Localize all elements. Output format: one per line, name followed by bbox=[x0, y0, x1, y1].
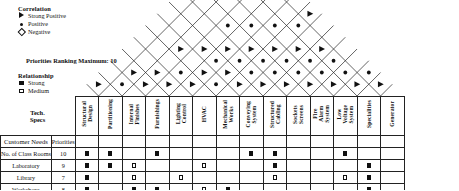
table-row: No. of Class Rooms10 bbox=[1, 148, 405, 160]
matrix-cell-r2-c10[interactable] bbox=[310, 172, 334, 184]
matrix-cell-r1-c11[interactable] bbox=[334, 160, 358, 172]
roof-mark-strong-positive-0 bbox=[96, 81, 102, 87]
matrix-cell-r0-c0[interactable] bbox=[75, 148, 99, 160]
spec-column-header-9[interactable]: SocketsScreens bbox=[287, 97, 311, 136]
matrix-cell-r1-c2[interactable] bbox=[122, 160, 146, 172]
matrix-cell-r0-c5[interactable] bbox=[193, 148, 217, 160]
roof-mark-positive-38 bbox=[214, 59, 218, 63]
tech-specs-corner-header: Tech.Specs bbox=[1, 97, 76, 136]
matrix-cell-r0-c4[interactable] bbox=[169, 148, 193, 160]
spec-column-header-2[interactable]: InternalFinishes bbox=[122, 97, 146, 136]
matrix-cell-r0-c13[interactable] bbox=[381, 148, 405, 160]
spec-column-header-5[interactable]: HVAC bbox=[193, 97, 217, 136]
matrix-cell-r0-c9[interactable] bbox=[287, 148, 311, 160]
matrix-cell-r2-c8[interactable] bbox=[263, 172, 287, 184]
matrix-cell-r3-c7[interactable] bbox=[240, 184, 264, 191]
spec-column-header-6[interactable]: MechanicalWorks bbox=[216, 97, 240, 136]
matrix-cell-r2-c2[interactable] bbox=[122, 172, 146, 184]
customer-need-label-2[interactable]: Library bbox=[1, 172, 52, 184]
matrix-cell-r1-c10[interactable] bbox=[310, 160, 334, 172]
roof-mark-positive-1 bbox=[120, 82, 124, 86]
roof-mark-strong-positive-25 bbox=[202, 46, 208, 52]
strong-relationship-icon bbox=[132, 187, 136, 190]
matrix-cell-r0-c11[interactable] bbox=[334, 148, 358, 160]
table-subheader-row: Customer NeedsPriorities bbox=[1, 136, 405, 148]
matrix-cell-r3-c6[interactable] bbox=[216, 184, 240, 191]
matrix-cell-r1-c1[interactable] bbox=[99, 160, 123, 172]
spec-column-header-11[interactable]: LowVoltageSystem bbox=[334, 97, 358, 136]
matrix-cell-r0-c6[interactable] bbox=[216, 148, 240, 160]
spec-column-label: MechanicalWorks bbox=[222, 100, 234, 129]
spec-column-header-0[interactable]: StructuralDesign bbox=[75, 97, 99, 136]
matrix-cell-r3-c12[interactable] bbox=[357, 184, 381, 191]
roof-mark-positive-20 bbox=[343, 71, 347, 75]
matrix-cell-r3-c2[interactable] bbox=[122, 184, 146, 191]
matrix-cell-r3-c4[interactable] bbox=[169, 184, 193, 191]
roof-mark-strong-positive-23 bbox=[378, 81, 384, 87]
subheader-spacer-9 bbox=[287, 136, 311, 148]
spec-column-header-3[interactable]: Furnishings bbox=[146, 97, 170, 136]
matrix-cell-r0-c3[interactable] bbox=[146, 148, 170, 160]
matrix-cell-r1-c7[interactable] bbox=[240, 160, 264, 172]
matrix-cell-r2-c4[interactable] bbox=[169, 172, 193, 184]
spec-column-header-4[interactable]: LightingControl bbox=[169, 97, 193, 136]
strong-relationship-icon bbox=[108, 151, 112, 155]
matrix-cell-r3-c13[interactable] bbox=[381, 184, 405, 191]
matrix-cell-r1-c9[interactable] bbox=[287, 160, 311, 172]
matrix-cell-r1-c3[interactable] bbox=[146, 160, 170, 172]
spec-column-header-13[interactable]: Generator bbox=[381, 97, 405, 136]
spec-column-header-7[interactable]: ConveyingSystem bbox=[240, 97, 264, 136]
matrix-cell-r2-c0[interactable] bbox=[75, 172, 99, 184]
matrix-cell-r0-c8[interactable] bbox=[263, 148, 287, 160]
matrix-cell-r3-c3[interactable] bbox=[146, 184, 170, 191]
spec-column-header-12[interactable]: Specialities bbox=[357, 97, 381, 136]
matrix-cell-r3-c10[interactable] bbox=[310, 184, 334, 191]
matrix-cell-r3-c9[interactable] bbox=[287, 184, 311, 191]
matrix-cell-r2-c3[interactable] bbox=[146, 172, 170, 184]
matrix-cell-r2-c12[interactable] bbox=[357, 172, 381, 184]
matrix-cell-r3-c11[interactable] bbox=[334, 184, 358, 191]
medium-relationship-icon bbox=[343, 175, 347, 179]
matrix-cell-r2-c5[interactable] bbox=[193, 172, 217, 184]
priority-value-1: 9 bbox=[51, 160, 75, 172]
matrix-cell-r0-c1[interactable] bbox=[99, 148, 123, 160]
matrix-cell-r0-c12[interactable] bbox=[357, 148, 381, 160]
customer-need-label-0[interactable]: No. of Class Rooms bbox=[1, 148, 52, 160]
matrix-cell-r2-c13[interactable] bbox=[381, 172, 405, 184]
spec-column-header-10[interactable]: FireAlarmSystem bbox=[310, 97, 334, 136]
matrix-cell-r2-c11[interactable] bbox=[334, 172, 358, 184]
matrix-cell-r1-c5[interactable] bbox=[193, 160, 217, 172]
spec-column-header-1[interactable]: Partitioning bbox=[99, 97, 123, 136]
roof-mark-positive-32 bbox=[296, 24, 300, 28]
matrix-cell-r1-c12[interactable] bbox=[357, 160, 381, 172]
matrix-cell-r2-c7[interactable] bbox=[240, 172, 264, 184]
customer-needs-header: Customer Needs bbox=[1, 136, 52, 148]
matrix-cell-r2-c6[interactable] bbox=[216, 172, 240, 184]
roof-mark-strong-positive-10 bbox=[225, 70, 231, 76]
spec-column-header-8[interactable]: StructuredCabling bbox=[263, 97, 287, 136]
matrix-cell-r0-c10[interactable] bbox=[310, 148, 334, 160]
roof-mark-positive-33 bbox=[249, 24, 253, 28]
customer-need-label-3[interactable]: Workshops bbox=[1, 184, 52, 191]
medium-relationship-icon bbox=[202, 187, 206, 190]
matrix-cell-r1-c8[interactable] bbox=[263, 160, 287, 172]
matrix-cell-r0-c7[interactable] bbox=[240, 148, 264, 160]
roof-mark-strong-positive-21 bbox=[354, 81, 360, 87]
matrix-cell-r1-c13[interactable] bbox=[381, 160, 405, 172]
matrix-cell-r1-c0[interactable] bbox=[75, 160, 99, 172]
customer-need-label-1[interactable]: Laboratory bbox=[1, 160, 52, 172]
strong-relationship-icon bbox=[155, 187, 159, 190]
table-row: Laboratory9 bbox=[1, 160, 405, 172]
matrix-cell-r1-c6[interactable] bbox=[216, 160, 240, 172]
matrix-cell-r0-c2[interactable] bbox=[122, 148, 146, 160]
strong-relationship-icon bbox=[367, 163, 371, 167]
roof-mark-strong-positive-15 bbox=[284, 81, 290, 87]
matrix-cell-r3-c0[interactable] bbox=[75, 184, 99, 191]
matrix-cell-r3-c1[interactable] bbox=[99, 184, 123, 191]
matrix-cell-r3-c5[interactable] bbox=[193, 184, 217, 191]
spec-column-label: HVAC bbox=[201, 106, 207, 122]
matrix-cell-r1-c4[interactable] bbox=[169, 160, 193, 172]
matrix-cell-r3-c8[interactable] bbox=[263, 184, 287, 191]
matrix-cell-r2-c9[interactable] bbox=[287, 172, 311, 184]
matrix-cell-r2-c1[interactable] bbox=[99, 172, 123, 184]
